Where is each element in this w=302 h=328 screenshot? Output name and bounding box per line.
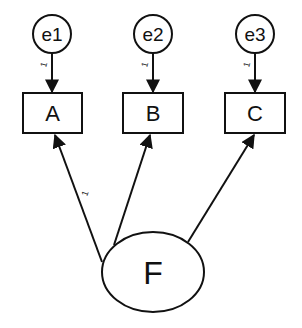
observed-variable-label: A — [45, 101, 60, 126]
error-term-label: e3 — [244, 24, 265, 45]
observed-variable-label: C — [247, 101, 263, 126]
error-term-label: e2 — [142, 24, 163, 45]
path-F-B — [114, 135, 150, 245]
error-term-e3: e3 — [236, 15, 274, 53]
error-term-label: e1 — [41, 24, 62, 45]
error-term-e2: e2 — [134, 15, 172, 53]
observed-variable-C: C — [225, 93, 285, 133]
latent-variable-label: F — [143, 255, 163, 291]
observed-variable-B: B — [123, 93, 183, 133]
observed-variable-A: A — [23, 93, 82, 133]
path-F-C — [188, 135, 254, 242]
sem-diagram: e1 e2 e3 1 1 1 A B C 1 F — [0, 0, 302, 328]
error-term-e1: e1 — [33, 15, 71, 53]
path-label-F-A: 1 — [79, 189, 90, 197]
path-label-e1-A: 1 — [38, 61, 49, 68]
path-label-e2-B: 1 — [139, 61, 150, 68]
observed-variable-label: B — [146, 101, 161, 126]
latent-variable-F: F — [102, 232, 204, 312]
path-F-A — [55, 135, 102, 262]
path-label-e3-C: 1 — [241, 61, 252, 68]
